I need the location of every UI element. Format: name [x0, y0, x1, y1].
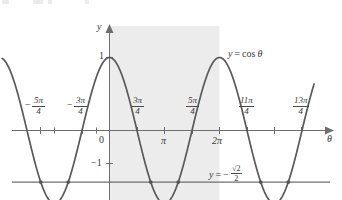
- fraction-denominator: 4: [243, 107, 250, 117]
- x-tick-label-pi: π: [161, 136, 166, 146]
- fraction-numerator: 5π: [187, 96, 198, 106]
- fraction-denominator: 4: [134, 107, 141, 117]
- fraction-denominator: 4: [35, 107, 42, 117]
- intersection-dot: [66, 180, 70, 184]
- curve-equation-label: y = cos θ: [228, 48, 262, 59]
- fraction-denominator: 2: [233, 174, 239, 183]
- x-tick-label-minus-3pi-over-4: − 3π 4: [74, 96, 87, 116]
- intersection-dot: [149, 180, 153, 184]
- figure-container: y θ 0 1 −1 − 5π 4 − 3π 4 3π 4 5π 4 11π 4…: [0, 0, 342, 200]
- minus-sign: −: [25, 100, 31, 110]
- fraction-numerator: 5π: [33, 96, 44, 106]
- fraction-numerator: 13π: [293, 96, 309, 106]
- cosine-plot-svg: [0, 0, 342, 200]
- x-tick-label-minus-5pi-over-4: − 5π 4: [32, 96, 45, 116]
- origin-label: 0: [99, 135, 104, 145]
- sqrt2-over-2-fraction: √2 2: [231, 165, 242, 183]
- equals-sign: =: [215, 169, 221, 180]
- y-tick-label-minus-1: −1: [91, 158, 102, 168]
- shaded-period-region: [110, 26, 220, 200]
- fraction-numerator: 3π: [75, 96, 86, 106]
- equals-sign: =: [234, 48, 240, 59]
- fraction-numerator: √2: [231, 165, 241, 173]
- minus-sign: −: [67, 100, 73, 110]
- y-axis-label: y: [97, 22, 101, 32]
- line-equation-label: y = − √2 2: [209, 166, 242, 184]
- x-tick-label-2pi: 2π: [212, 136, 222, 146]
- intersection-dot: [176, 180, 180, 184]
- x-axis-label: θ: [327, 134, 332, 144]
- intersection-dot: [286, 180, 290, 184]
- cos-function-name: cos: [242, 48, 255, 59]
- theta-variable: θ: [257, 48, 262, 59]
- x-tick-label-3pi-over-4: 3π 4: [131, 96, 144, 116]
- intersection-dot: [259, 180, 263, 184]
- equation-lhs: y: [228, 48, 232, 59]
- fraction-denominator: 4: [189, 107, 196, 117]
- x-tick-label-5pi-over-4: 5π 4: [186, 96, 199, 116]
- x-tick-label-11pi-over-4: 11π 4: [239, 96, 254, 116]
- intersection-dot: [39, 180, 43, 184]
- fraction-denominator: 4: [298, 107, 305, 117]
- fraction-numerator: 3π: [132, 96, 143, 106]
- fraction-numerator: 11π: [239, 96, 254, 106]
- equation-lhs: y: [209, 169, 213, 180]
- x-tick-label-13pi-over-4: 13π 4: [293, 96, 309, 116]
- minus-sign: −: [223, 169, 229, 180]
- y-tick-label-1: 1: [99, 51, 104, 61]
- fraction-denominator: 4: [77, 107, 84, 117]
